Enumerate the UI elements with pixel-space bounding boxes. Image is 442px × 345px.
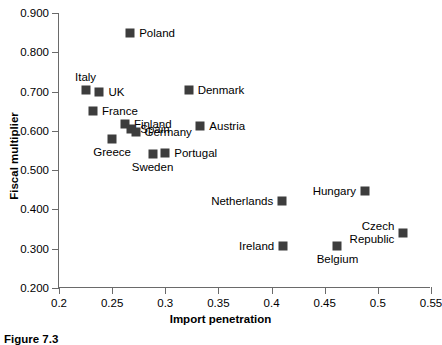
x-axis-tick-label: 0.2 bbox=[51, 297, 67, 309]
y-axis-tick-label: 0.400 bbox=[20, 203, 49, 215]
y-axis-tick bbox=[52, 52, 59, 53]
x-axis-tick bbox=[112, 287, 113, 294]
data-point-marker bbox=[196, 121, 205, 130]
figure-caption: Figure 7.3 bbox=[4, 333, 58, 345]
x-axis-tick bbox=[325, 287, 326, 294]
y-axis-tick-label: 0.600 bbox=[20, 125, 49, 137]
y-axis-tick bbox=[52, 13, 59, 14]
data-point-marker bbox=[279, 242, 288, 251]
data-point-label: France bbox=[102, 105, 138, 117]
data-point-marker bbox=[161, 148, 170, 157]
data-point-marker bbox=[361, 187, 370, 196]
data-point-label: CzechRepublic bbox=[350, 220, 395, 246]
x-axis-tick bbox=[218, 287, 219, 294]
data-point-label: Portugal bbox=[174, 147, 217, 159]
data-point-label: UK bbox=[108, 86, 124, 98]
x-axis-tick-label: 0.35 bbox=[207, 297, 229, 309]
x-axis-tick bbox=[165, 287, 166, 294]
y-axis-tick-label: 0.800 bbox=[20, 46, 49, 58]
y-axis-tick bbox=[52, 170, 59, 171]
y-axis-tick-label: 0.500 bbox=[20, 164, 49, 176]
y-axis-title: Fiscal multiplier bbox=[8, 86, 20, 226]
y-axis-tick bbox=[52, 209, 59, 210]
y-axis-tick-label: 0.700 bbox=[20, 86, 49, 98]
data-point-marker bbox=[95, 87, 104, 96]
data-point-label: Ireland bbox=[239, 240, 274, 252]
x-axis-tick-label: 0.5 bbox=[370, 297, 386, 309]
data-point-marker bbox=[148, 150, 157, 159]
x-axis-tick bbox=[59, 287, 60, 294]
data-point-marker bbox=[89, 107, 98, 116]
data-point-label: Poland bbox=[139, 27, 175, 39]
data-point-label: Netherlands bbox=[211, 195, 273, 207]
x-axis-tick-label: 0.25 bbox=[101, 297, 123, 309]
data-point-label: Austria bbox=[209, 120, 245, 132]
x-axis-tick bbox=[431, 287, 432, 294]
x-axis-tick bbox=[272, 287, 273, 294]
data-point-label: Belgium bbox=[317, 253, 359, 265]
data-point-marker bbox=[184, 86, 193, 95]
data-point-marker bbox=[333, 242, 342, 251]
data-point-marker bbox=[278, 196, 287, 205]
data-point-marker bbox=[108, 134, 117, 143]
y-axis-tick bbox=[52, 92, 59, 93]
x-axis-tick-label: 0.4 bbox=[264, 297, 280, 309]
data-point-label: Denmark bbox=[198, 84, 245, 96]
data-point-label: Greece bbox=[93, 146, 131, 158]
y-axis-tick-label: 0.300 bbox=[20, 243, 49, 255]
y-axis-tick-label: 0.200 bbox=[20, 282, 49, 294]
x-axis-title: Import penetration bbox=[0, 313, 441, 325]
y-axis-tick bbox=[52, 288, 59, 289]
x-axis-tick-label: 0.3 bbox=[157, 297, 173, 309]
y-axis-tick bbox=[52, 131, 59, 132]
data-point-marker bbox=[131, 128, 140, 137]
data-point-label: Hungary bbox=[313, 185, 356, 197]
x-axis-tick-label: 0.45 bbox=[314, 297, 336, 309]
data-point-marker bbox=[399, 228, 408, 237]
data-point-label: Italy bbox=[75, 71, 96, 83]
x-axis-tick-label: 0.55 bbox=[420, 297, 442, 309]
plot-area: 0.2000.3000.4000.5000.6000.7000.8000.900… bbox=[58, 13, 430, 288]
data-point-label: Germany bbox=[145, 126, 192, 138]
y-axis-tick-label: 0.900 bbox=[20, 7, 49, 19]
y-axis-tick bbox=[52, 249, 59, 250]
data-point-label: Sweden bbox=[132, 161, 174, 173]
x-axis-tick bbox=[378, 287, 379, 294]
data-point-marker bbox=[81, 86, 90, 95]
data-point-marker bbox=[126, 28, 135, 37]
